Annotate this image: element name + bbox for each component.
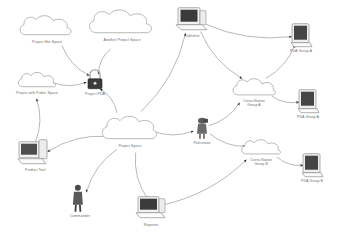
desktop-computer-icon [17,138,53,168]
node-label: Product Tool [17,169,53,173]
node-pda-group-a-top[interactable]: PDA Group A [288,23,314,54]
node-product-tool[interactable]: Product Tool [17,138,53,173]
diagram-edge [135,153,148,200]
diagram-edge [141,33,186,111]
node-cross-nation-group-b[interactable]: Cross-Nation Group B [238,138,284,166]
node-project-space-center[interactable]: Project Space [99,114,161,149]
node-pda-group-b[interactable]: PDA Group B [299,153,325,184]
node-label: PDA Group A [295,116,321,120]
diagram-edge [205,24,292,38]
node-label: Project with Public Space [15,92,59,96]
node-project-public-space[interactable]: Project with Public Space [15,71,59,96]
monitor-icon [295,89,321,115]
cloud-icon [85,8,159,38]
diagram-edge [162,160,247,205]
node-label: Project Space [99,145,161,149]
padlock-icon [84,68,106,92]
node-label: Cross-Nation Group B [238,159,284,166]
node-label: Publisher [174,35,210,39]
diagram-edge [86,149,117,192]
node-label: PDA Group A [288,50,314,54]
node-label: Policeman [193,142,211,146]
node-commander[interactable]: Commander [70,184,90,219]
policeman-icon [193,117,211,141]
node-project-pda[interactable]: Project PDA [84,68,106,97]
cloud-icon [99,114,161,144]
node-project-hot-space[interactable]: Project Hot Space [16,14,78,45]
node-label: Project Hot Space [16,41,78,45]
node-label: Reporter [134,224,168,228]
monitor-icon [299,153,325,179]
desktop-computer-icon [174,6,210,34]
node-cross-nation-group-a[interactable]: Cross-Nation Group A [229,77,279,107]
commander-icon [70,184,90,214]
diagram-edge [201,32,243,79]
node-label: Cross-Nation Group A [229,100,279,107]
node-policeman[interactable]: Policeman [193,117,211,146]
cloud-icon [15,71,59,91]
desktop-computer-icon [134,195,168,223]
node-label: Commander [70,215,90,219]
diagram-edge [35,99,40,142]
cloud-icon [238,138,284,158]
node-publisher[interactable]: Publisher [174,6,210,39]
node-pda-group-a-right[interactable]: PDA Group A [295,89,321,120]
node-label: Project PDA [84,93,106,97]
diagram-canvas: Project Hot Space Another Project Space … [0,0,338,238]
cloud-icon [229,77,279,99]
cloud-icon [16,14,78,40]
node-label: PDA Group B [299,180,325,184]
node-reporter[interactable]: Reporter [134,195,168,228]
node-label: Another Project Space [85,39,159,43]
node-another-project-space[interactable]: Another Project Space [85,8,159,43]
monitor-icon [288,23,314,49]
